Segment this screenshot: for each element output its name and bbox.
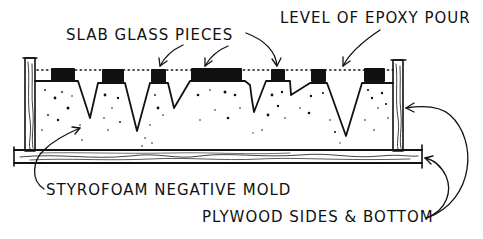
label-styrofoam-mold: STYROFOAM NEGATIVE MOLD (46, 183, 291, 199)
plywood-bottom (14, 145, 422, 168)
arrow-slab-glass-3 (246, 33, 277, 66)
glass-piece (151, 69, 166, 83)
label-slab-glass-pieces: SLAB GLASS PIECES (66, 28, 233, 44)
arrow-epoxy-level (343, 30, 380, 66)
right-plywood-wall (391, 60, 406, 151)
label-epoxy-level: LEVEL OF EPOXY POUR (280, 11, 471, 27)
glass-piece (311, 69, 326, 82)
glass-piece (102, 69, 124, 83)
styrofoam-stipple (41, 89, 389, 147)
styrofoam-mold (35, 81, 393, 147)
glass-piece (271, 69, 285, 81)
label-plywood: PLYWOOD SIDES & BOTTOM (202, 210, 434, 226)
left-plywood-wall (23, 58, 37, 151)
